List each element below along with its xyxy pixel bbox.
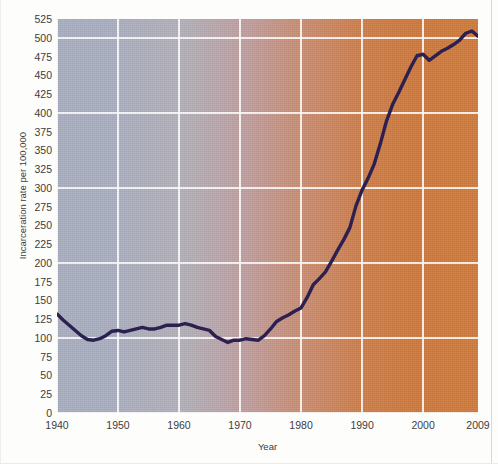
x-axis-tick-label: 1970 [210,419,270,431]
x-axis-tick-label: 1980 [271,419,331,431]
y-axis-label: Incarceration rate per 100,000 [17,106,28,286]
x-axis-ticks: 19401950196019701980199020002009 [0,0,498,464]
x-axis-tick-label: 1940 [27,419,87,431]
x-axis-tick-label: 2000 [393,419,453,431]
x-axis-tick-label: 1960 [149,419,209,431]
x-axis-tick-label: 2009 [448,419,498,431]
x-axis-label: Year [57,441,478,452]
chart-figure: 0255075100125150175200225250275300325350… [0,0,498,464]
x-axis-tick-label: 1950 [88,419,148,431]
x-axis-tick-label: 1990 [332,419,392,431]
